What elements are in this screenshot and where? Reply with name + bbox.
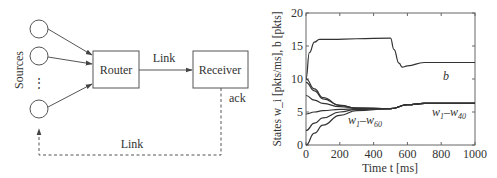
source-node-1 [30,20,48,38]
x-axis-label: Time t [ms] [362,161,418,175]
chart: 0200400600800100005101520 Time t [ms] St… [271,6,487,175]
annotation-w1-w60: w1–w60 [348,113,382,129]
y-tick-label: 10 [291,72,303,86]
source-node-2 [30,47,48,65]
x-tick-label: 400 [365,147,383,161]
annotation-w1-w40: w1–w40 [432,105,466,121]
axis-ticks [306,13,475,145]
source2-to-router-arrow [48,57,92,64]
x-tick-label: 1000 [463,147,487,161]
y-tick-label: 0 [297,138,303,152]
y-tick-label: 20 [291,6,303,20]
x-tick-label: 600 [398,147,416,161]
sources-ellipsis: ⋮ [33,76,45,90]
sources-label: Sources [12,51,26,89]
annotation-b: b [443,69,449,83]
y-axis-label: States w_i [pkts/ms], b [pkts] [271,11,284,146]
source-node-n [30,100,48,118]
series-lines [306,38,475,145]
plot-frame [306,13,475,145]
x-tick-label: 0 [303,147,309,161]
source1-to-router-arrow [48,29,92,55]
figure: Sources ⋮ Router Receiver Link Link ack … [0,0,497,178]
forward-link-label: Link [153,51,176,65]
ack-label: ack [229,91,246,105]
feedback-link-label: Link [121,137,144,151]
x-tick-label: 800 [432,147,450,161]
y-tick-label: 5 [297,105,303,119]
router-label: Router [100,63,133,77]
y-tick-label: 15 [291,39,303,53]
x-tick-label: 200 [331,147,349,161]
network-diagram [30,20,248,155]
tick-labels: 0200400600800100005101520 [291,6,487,161]
receiver-label: Receiver [199,63,242,77]
series-line [306,38,475,79]
sourcen-to-router-arrow [48,84,92,107]
